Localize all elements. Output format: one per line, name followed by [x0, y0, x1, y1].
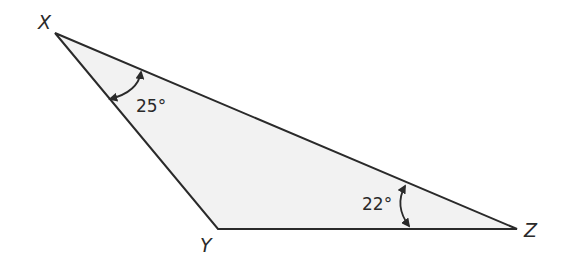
vertex-label-x: X [37, 11, 52, 33]
vertex-label-z: Z [523, 219, 538, 241]
triangle-diagram: X Y Z 25° 22° [0, 0, 565, 266]
angle-label-z: 22° [362, 194, 392, 214]
angle-label-x: 25° [136, 96, 166, 116]
triangle-xyz [55, 33, 517, 229]
vertex-label-y: Y [200, 234, 213, 256]
